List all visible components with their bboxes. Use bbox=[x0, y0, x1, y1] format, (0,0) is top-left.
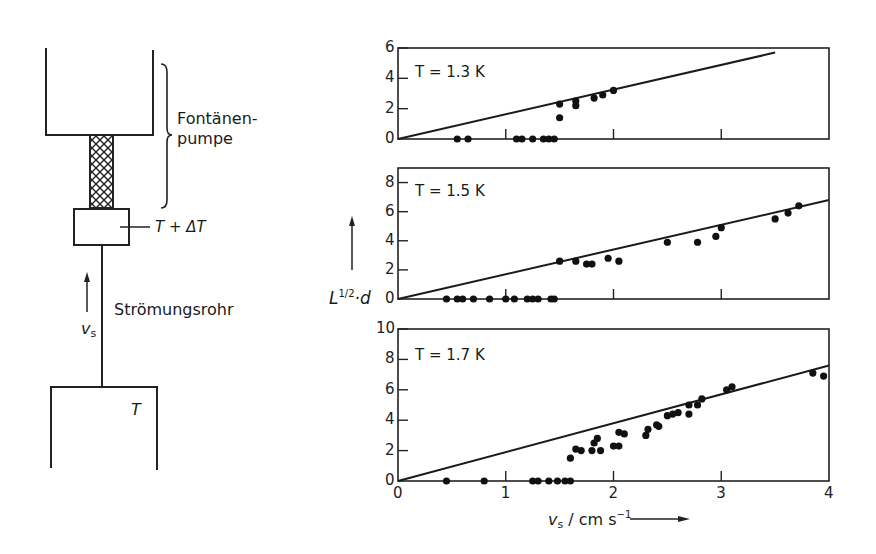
fountain-pump-label-line2: pumpe bbox=[177, 131, 258, 147]
data-point bbox=[502, 295, 509, 302]
data-point bbox=[551, 135, 558, 142]
fountain-pump-apparatus-diagram bbox=[0, 0, 876, 554]
data-point bbox=[486, 295, 493, 302]
y-axis-label-exponent: 1/2 bbox=[338, 288, 354, 299]
data-point bbox=[809, 369, 816, 376]
panel-1-title-text: T = 1.3 K bbox=[415, 63, 485, 81]
y-axis-label: L1/2·d bbox=[329, 289, 371, 307]
panel-2-title: T = 1.5 K bbox=[415, 184, 485, 199]
x-axis-label-unit: / cm s bbox=[563, 510, 616, 529]
data-point bbox=[443, 477, 450, 484]
y-tick-label: 6 bbox=[385, 382, 395, 397]
y-tick-label: 0 bbox=[385, 291, 395, 306]
data-point bbox=[685, 411, 692, 418]
x-tick-label: 2 bbox=[609, 486, 619, 501]
y-tick-label: 4 bbox=[385, 233, 395, 248]
y-tick-label: 8 bbox=[385, 351, 395, 366]
data-point bbox=[615, 442, 622, 449]
lower-reservoir bbox=[51, 387, 157, 470]
data-point bbox=[481, 477, 488, 484]
x-tick-label: 4 bbox=[824, 486, 834, 501]
data-point bbox=[464, 135, 471, 142]
y-tick-label: 6 bbox=[385, 204, 395, 219]
x-axis-label: vs / cm s−1 bbox=[548, 510, 631, 530]
y-tick-label: 4 bbox=[385, 412, 395, 427]
data-point bbox=[820, 373, 827, 380]
heater-temp-label: T + ΔT bbox=[155, 220, 206, 235]
data-point bbox=[459, 295, 466, 302]
data-point bbox=[588, 260, 595, 267]
fit-line bbox=[398, 200, 829, 299]
data-point bbox=[664, 239, 671, 246]
panel-3-title: T = 1.7 K bbox=[415, 348, 485, 363]
data-point bbox=[554, 477, 561, 484]
y-axis-arrow-icon bbox=[349, 216, 355, 226]
data-point bbox=[605, 255, 612, 262]
x-tick-label: 1 bbox=[501, 486, 511, 501]
data-point bbox=[556, 114, 563, 121]
fountain-pump-label-line1: Fontänen- bbox=[177, 111, 258, 127]
y-tick-label: 8 bbox=[385, 175, 395, 190]
data-point bbox=[644, 426, 651, 433]
panel-1-title: T = 1.3 K bbox=[415, 65, 485, 80]
data-point bbox=[518, 135, 525, 142]
superleak-plug bbox=[90, 135, 113, 208]
data-point bbox=[572, 97, 579, 104]
fountain-pump-label: Fontänen- pumpe bbox=[177, 111, 258, 147]
x-axis-arrow-icon bbox=[678, 516, 690, 522]
data-point bbox=[529, 135, 536, 142]
data-point bbox=[556, 258, 563, 265]
data-point bbox=[621, 430, 628, 437]
y-tick-label: 4 bbox=[385, 70, 395, 85]
data-point bbox=[572, 258, 579, 265]
data-point bbox=[655, 423, 662, 430]
data-point bbox=[772, 215, 779, 222]
data-point bbox=[470, 295, 477, 302]
data-point bbox=[694, 239, 701, 246]
data-point bbox=[551, 295, 558, 302]
velocity-subscript: s bbox=[90, 327, 96, 340]
data-point bbox=[567, 455, 574, 462]
data-point bbox=[599, 91, 606, 98]
x-axis-label-unit-exponent: −1 bbox=[617, 509, 632, 520]
y-tick-label: 2 bbox=[385, 101, 395, 116]
data-point bbox=[784, 210, 791, 217]
data-point bbox=[728, 383, 735, 390]
data-point bbox=[534, 477, 541, 484]
reservoir-temp-label: T bbox=[131, 402, 141, 418]
panel-2-title-text: T = 1.5 K bbox=[415, 182, 485, 200]
x-tick-label: 3 bbox=[716, 486, 726, 501]
data-point bbox=[594, 435, 601, 442]
data-point bbox=[556, 101, 563, 108]
velocity-label: vs bbox=[81, 321, 96, 339]
x-tick-label: 0 bbox=[393, 486, 403, 501]
data-point bbox=[588, 447, 595, 454]
y-axis-label-rest: ·d bbox=[355, 288, 371, 308]
y-tick-label: 2 bbox=[385, 262, 395, 277]
data-point bbox=[443, 295, 450, 302]
data-point bbox=[694, 401, 701, 408]
y-tick-label: 6 bbox=[385, 40, 395, 55]
data-point bbox=[567, 477, 574, 484]
upper-reservoir bbox=[46, 48, 153, 135]
data-point bbox=[534, 295, 541, 302]
data-point bbox=[795, 202, 802, 209]
data-point bbox=[610, 87, 617, 94]
data-point bbox=[591, 94, 598, 101]
panel-3-title-text: T = 1.7 K bbox=[415, 346, 485, 364]
data-point bbox=[511, 295, 518, 302]
data-point bbox=[597, 447, 604, 454]
flow-tube-label: Strömungsrohr bbox=[114, 302, 234, 318]
y-tick-label: 10 bbox=[376, 321, 395, 336]
brace-icon bbox=[161, 64, 172, 208]
data-point bbox=[712, 233, 719, 240]
data-point bbox=[615, 258, 622, 265]
data-point bbox=[718, 224, 725, 231]
y-tick-label: 2 bbox=[385, 443, 395, 458]
data-point bbox=[578, 447, 585, 454]
y-tick-label: 0 bbox=[385, 131, 395, 146]
data-point bbox=[698, 395, 705, 402]
velocity-arrow-icon bbox=[84, 272, 90, 282]
data-point bbox=[454, 135, 461, 142]
data-point bbox=[545, 477, 552, 484]
